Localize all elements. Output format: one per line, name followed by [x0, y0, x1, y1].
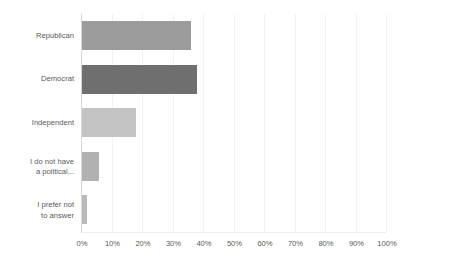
x-axis-line — [81, 232, 386, 233]
category-label-prefer-not-to-answer: I prefer not to answer — [0, 188, 74, 232]
category-label-text: I prefer not to answer — [0, 200, 74, 221]
y-axis-line — [81, 14, 82, 232]
bar-row — [81, 58, 386, 102]
bar-republican[interactable] — [81, 21, 191, 50]
x-tick-40: 40% — [196, 238, 211, 249]
bar-row — [81, 145, 386, 189]
category-label-independent: Independent — [0, 101, 74, 145]
category-label-text: Democrat — [0, 74, 74, 85]
bar-independent[interactable] — [81, 108, 136, 137]
bar-chart: Republican Democrat Independent I do not… — [0, 0, 470, 270]
category-label-democrat: Democrat — [0, 58, 74, 102]
x-tick-10: 10% — [105, 238, 120, 249]
category-label-republican: Republican — [0, 14, 74, 58]
x-tick-60: 60% — [257, 238, 272, 249]
bar-row — [81, 101, 386, 145]
x-tick-0: 0% — [77, 238, 88, 249]
x-tick-80: 80% — [318, 238, 333, 249]
bar-democrat[interactable] — [81, 65, 197, 94]
category-label-text: Republican — [0, 31, 74, 42]
x-tick-30: 30% — [166, 238, 181, 249]
bar-row — [81, 188, 386, 232]
category-label-text: Independent — [0, 118, 74, 129]
category-label-no-political-affiliation: I do not have a political... — [0, 145, 74, 189]
plot-area — [81, 14, 386, 232]
x-tick-100: 100% — [377, 238, 396, 249]
x-axis-tick-labels: 0% 10% 20% 30% 40% 50% 60% 70% 80% 90% 1… — [0, 238, 470, 252]
bar-row — [81, 14, 386, 58]
category-label-text: I do not have a political... — [0, 156, 74, 177]
x-tick-50: 50% — [227, 238, 242, 249]
x-tick-90: 90% — [349, 238, 364, 249]
gridline-100 — [386, 14, 387, 232]
x-tick-70: 70% — [288, 238, 303, 249]
x-tick-20: 20% — [135, 238, 150, 249]
category-labels: Republican Democrat Independent I do not… — [0, 14, 74, 232]
bar-no-political-affiliation[interactable] — [81, 152, 99, 181]
